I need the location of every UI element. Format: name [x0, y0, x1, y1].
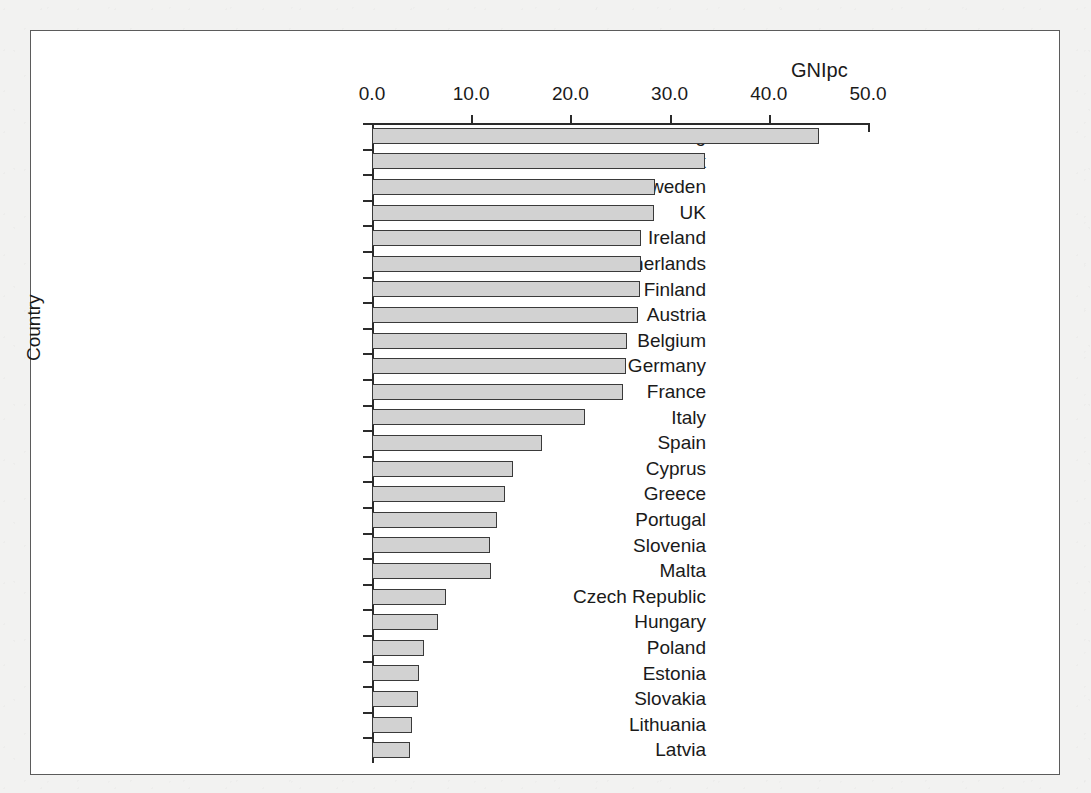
y-axis-tick: [363, 174, 372, 176]
category-label: Lithuania: [386, 712, 706, 738]
bar-row: Lithuania: [31, 712, 1061, 738]
x-axis-tick-label: 40.0: [750, 83, 787, 105]
bar-row: Slovakia: [31, 686, 1061, 712]
bar-row: Hungary: [31, 609, 1061, 635]
bar-row: Germany: [31, 353, 1061, 379]
y-axis-tick: [363, 737, 372, 739]
y-axis-tick: [363, 302, 372, 304]
bar: [372, 256, 641, 272]
bar-row: Denmark: [31, 149, 1061, 175]
y-axis-tick: [363, 533, 372, 535]
bar: [372, 691, 418, 707]
bar-row: Portugal: [31, 507, 1061, 533]
y-axis-tick: [363, 661, 372, 663]
category-label: Slovakia: [386, 686, 706, 712]
x-axis-tick-label: 20.0: [552, 83, 589, 105]
bar-row: Netherlands: [31, 251, 1061, 277]
y-axis-tick: [363, 251, 372, 253]
y-axis-tick: [363, 277, 372, 279]
bar: [372, 409, 585, 425]
bar: [372, 384, 623, 400]
bar: [372, 333, 627, 349]
bar: [372, 665, 419, 681]
bar: [372, 307, 638, 323]
bar: [372, 281, 640, 297]
x-axis-tick-label: 30.0: [651, 83, 688, 105]
y-axis-tick: [363, 405, 372, 407]
bar: [372, 205, 654, 221]
bar: [372, 128, 819, 144]
figure-frame: GNIpc Country 0.010.020.030.040.050.0 Lu…: [30, 30, 1060, 775]
bar-row: Latvia: [31, 737, 1061, 763]
y-axis-tick: [363, 686, 372, 688]
bar-row: UK: [31, 200, 1061, 226]
category-label: Poland: [386, 635, 706, 661]
category-label: Estonia: [386, 661, 706, 687]
bar-row: Spain: [31, 430, 1061, 456]
y-axis-tick: [363, 225, 372, 227]
y-axis-tick: [363, 609, 372, 611]
y-axis-tick: [363, 353, 372, 355]
bar-row: Cyprus: [31, 456, 1061, 482]
bar-row: Finland: [31, 277, 1061, 303]
bar: [372, 230, 641, 246]
y-axis-tick: [363, 712, 372, 714]
y-axis-tick: [363, 584, 372, 586]
x-axis-tick-label: 0.0: [359, 83, 385, 105]
bar: [372, 179, 655, 195]
bar-row: Czech Republic: [31, 584, 1061, 610]
y-axis-tick: [363, 123, 372, 125]
bar-row: Belgium: [31, 328, 1061, 354]
y-axis-tick: [363, 200, 372, 202]
y-axis-tick: [363, 507, 372, 509]
x-axis-tick-label: 50.0: [850, 83, 887, 105]
y-axis-tick: [363, 481, 372, 483]
bar-row: France: [31, 379, 1061, 405]
bar-row: Italy: [31, 405, 1061, 431]
bar-row: Poland: [31, 635, 1061, 661]
y-axis-tick: [363, 430, 372, 432]
x-axis-tick-label: 10.0: [453, 83, 490, 105]
bar: [372, 358, 626, 374]
bar: [372, 717, 412, 733]
bar: [372, 153, 705, 169]
bar: [372, 512, 497, 528]
bar: [372, 589, 446, 605]
bar: [372, 614, 438, 630]
y-axis-tick: [363, 328, 372, 330]
y-axis-tick: [363, 558, 372, 560]
y-axis-tick: [363, 635, 372, 637]
page-background: GNIpc Country 0.010.020.030.040.050.0 Lu…: [0, 0, 1091, 793]
bar-row: Slovenia: [31, 533, 1061, 559]
bar-row: Austria: [31, 302, 1061, 328]
y-axis-tick: [363, 149, 372, 151]
bar: [372, 435, 542, 451]
y-axis-tick: [363, 379, 372, 381]
bar-row: Malta: [31, 558, 1061, 584]
y-axis-tick: [363, 456, 372, 458]
bar: [372, 563, 491, 579]
category-label: Latvia: [386, 737, 706, 763]
bar-row: Ireland: [31, 225, 1061, 251]
bar: [372, 742, 410, 758]
bar: [372, 640, 424, 656]
bar-row: Sweden: [31, 174, 1061, 200]
bar: [372, 461, 513, 477]
bar: [372, 537, 490, 553]
chart-title: GNIpc: [791, 59, 848, 82]
bar-row: Luxembourg: [31, 123, 1061, 149]
bar: [372, 486, 505, 502]
bar-row: Greece: [31, 481, 1061, 507]
bar-row: Estonia: [31, 661, 1061, 687]
